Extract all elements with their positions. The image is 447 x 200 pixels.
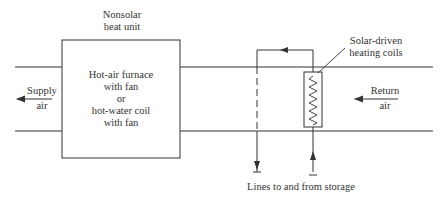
solar-coils-label: Solar-driven heating coils	[346, 35, 406, 59]
heating-coil-zigzag-icon	[309, 76, 317, 125]
body-line2: with fan	[64, 81, 178, 93]
storage-lines-label: Lines to and from storage	[226, 181, 376, 193]
nonsolar-title-line1: Nonsolar	[92, 9, 152, 21]
nonsolar-title-label: Nonsolar heat unit	[92, 9, 152, 33]
solar-coils-line2: heating coils	[346, 47, 406, 59]
top-flow-arrow-icon	[280, 47, 288, 53]
body-line3: or	[64, 93, 178, 105]
return-air-label: Return air	[367, 85, 403, 112]
outlet-down-arrow-icon	[254, 161, 260, 170]
storage-loop-lines	[257, 50, 313, 172]
supply-line1: Supply	[24, 85, 60, 97]
inlet-up-arrow-icon	[310, 151, 316, 160]
body-line1: Hot-air furnace	[64, 69, 178, 81]
body-line5: with fan	[64, 117, 178, 129]
return-line1: Return	[367, 85, 403, 97]
solar-coil-box	[304, 72, 322, 127]
supply-air-label: Supply air	[24, 85, 60, 112]
return-line2: air	[367, 100, 403, 112]
nonsolar-body-label: Hot-air furnace with fan or hot-water co…	[64, 69, 178, 129]
nonsolar-title-line2: heat unit	[92, 21, 152, 33]
body-line4: hot-water coil	[64, 105, 178, 117]
supply-line2: air	[24, 100, 60, 112]
solar-coils-line1: Solar-driven	[346, 35, 406, 47]
coil-leader-line	[318, 48, 345, 73]
